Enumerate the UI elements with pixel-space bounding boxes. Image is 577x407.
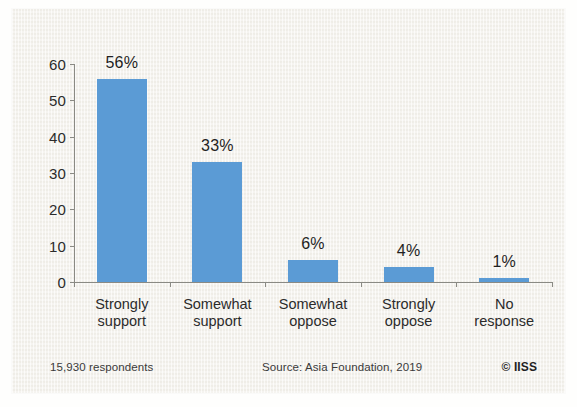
x-category-label: Somewhatoppose (279, 296, 348, 330)
y-tick-label: 50 (49, 92, 66, 109)
x-category-label-line: Strongly (382, 296, 435, 313)
chart-figure: 0102030405060 56%33%6%4%1% Stronglysuppo… (0, 0, 577, 407)
y-tick-label: 20 (49, 201, 66, 218)
y-axis-line (74, 64, 75, 283)
bar-value-label: 1% (492, 253, 516, 271)
y-tick-mark (70, 137, 74, 138)
x-category-label: Stronglyoppose (382, 296, 435, 330)
bar-value-label: 56% (105, 54, 138, 72)
y-tick-label: 40 (49, 128, 66, 145)
x-category-label-line: No (474, 296, 534, 313)
bar-value-label: 6% (301, 235, 325, 253)
y-tick-mark (70, 100, 74, 101)
bar (384, 267, 434, 282)
x-tick-mark (265, 282, 266, 287)
source-note: Source: Asia Foundation, 2019 (262, 361, 422, 373)
x-category-label: Noresponse (474, 296, 534, 330)
x-category-label-line: response (474, 313, 534, 330)
respondents-note: 15,930 respondents (50, 361, 153, 373)
x-category-label: Stronglysupport (95, 296, 148, 330)
x-tick-mark (74, 282, 75, 287)
y-tick-mark (70, 173, 74, 174)
bar-value-label: 4% (397, 242, 421, 260)
y-tick-label: 30 (49, 165, 66, 182)
y-tick-label: 60 (49, 56, 66, 73)
bar (288, 260, 338, 282)
x-category-label-line: Somewhat (183, 296, 252, 313)
y-tick-label: 10 (49, 237, 66, 254)
chart-panel: 0102030405060 56%33%6%4%1% Stronglysuppo… (12, 9, 565, 393)
x-tick-mark (552, 282, 553, 287)
x-category-label-line: Strongly (95, 296, 148, 313)
bar (97, 79, 147, 282)
y-tick-mark (70, 209, 74, 210)
copyright-note: © IISS (502, 360, 537, 374)
x-tick-mark (456, 282, 457, 287)
x-category-label-line: oppose (279, 313, 348, 330)
x-tick-mark (361, 282, 362, 287)
y-tick-label: 0 (57, 274, 66, 291)
x-category-label-line: Somewhat (279, 296, 348, 313)
x-category-label: Somewhatsupport (183, 296, 252, 330)
y-tick-mark (70, 246, 74, 247)
x-axis-line (74, 282, 552, 283)
bar (192, 162, 242, 282)
plot-area: 0102030405060 56%33%6%4%1% (74, 64, 552, 282)
bar-value-label: 33% (201, 137, 234, 155)
x-tick-mark (170, 282, 171, 287)
bar (479, 278, 529, 282)
x-category-label-line: support (183, 313, 252, 330)
x-category-label-line: support (95, 313, 148, 330)
y-tick-mark (70, 64, 74, 65)
x-category-label-line: oppose (382, 313, 435, 330)
